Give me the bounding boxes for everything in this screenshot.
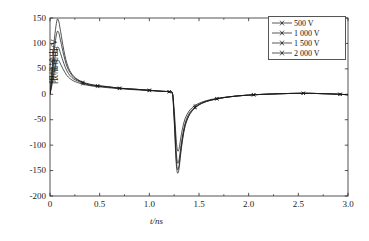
x-tick-label: 2.5 xyxy=(283,199,313,209)
x-tick-label: 2.0 xyxy=(234,199,264,209)
x-tick-label: 1.5 xyxy=(184,199,214,209)
legend-label: 1 000 V xyxy=(293,29,320,38)
legend-line-marker-icon xyxy=(271,29,293,37)
legend-line-marker-icon xyxy=(271,19,293,27)
chart-figure: 限幅输出/V t/ns 150100500-50-100-150-200 00.… xyxy=(0,0,369,241)
y-tick-label: 100 xyxy=(33,39,47,48)
legend-label: 1 500 V xyxy=(293,39,320,48)
legend-line-marker-icon xyxy=(271,49,293,57)
x-tick-label: 0.5 xyxy=(85,199,115,209)
legend-item[interactable]: 500 V xyxy=(269,18,345,28)
y-tick-label: 50 xyxy=(37,64,46,73)
y-tick-label: 0 xyxy=(42,90,47,99)
x-tick-label: 1.0 xyxy=(134,199,164,209)
y-tick-label: -100 xyxy=(30,141,47,150)
legend-label: 500 V xyxy=(293,19,314,28)
x-tick-label: 0 xyxy=(35,199,65,209)
x-axis-title: t/ns xyxy=(150,216,163,226)
y-tick-label: -50 xyxy=(34,115,46,124)
legend-item[interactable]: 1 500 V xyxy=(269,38,345,48)
legend-item[interactable]: 2 000 V xyxy=(269,48,345,58)
legend-line-marker-icon xyxy=(271,39,293,47)
legend-label: 2 000 V xyxy=(293,49,320,58)
y-tick-label: -150 xyxy=(30,166,47,175)
x-tick-label: 3.0 xyxy=(333,199,363,209)
y-tick-label: 150 xyxy=(33,14,47,23)
x-axis-title-text: t/ns xyxy=(150,216,163,226)
legend-item[interactable]: 1 000 V xyxy=(269,28,345,38)
legend: 500 V 1 000 V 1 500 V 2 000 V xyxy=(268,16,346,60)
y-axis-title: 限幅输出/V xyxy=(47,7,60,117)
